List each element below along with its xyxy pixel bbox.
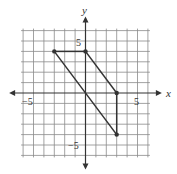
y-axis-down-arrow-icon xyxy=(83,163,89,169)
y-axis-label: y xyxy=(81,4,87,16)
y-tick-label-neg5: −5 xyxy=(68,140,79,151)
x-axis-label: x xyxy=(165,87,171,99)
x-axis-right-arrow-icon xyxy=(156,90,162,96)
vertex-point xyxy=(115,91,119,95)
coordinate-plane: x y −5 5 5 −5 xyxy=(0,0,177,174)
vertex-point xyxy=(83,49,87,53)
y-tick-label-5: 5 xyxy=(76,37,81,48)
x-axis-left-arrow-icon xyxy=(9,90,15,96)
vertex-point xyxy=(52,49,56,53)
x-tick-label-5: 5 xyxy=(134,96,139,107)
x-tick-label-neg5: −5 xyxy=(22,96,33,107)
y-axis-up-arrow-icon xyxy=(83,17,89,23)
vertex-point xyxy=(115,132,119,136)
labels: x y −5 5 5 −5 xyxy=(22,4,171,151)
